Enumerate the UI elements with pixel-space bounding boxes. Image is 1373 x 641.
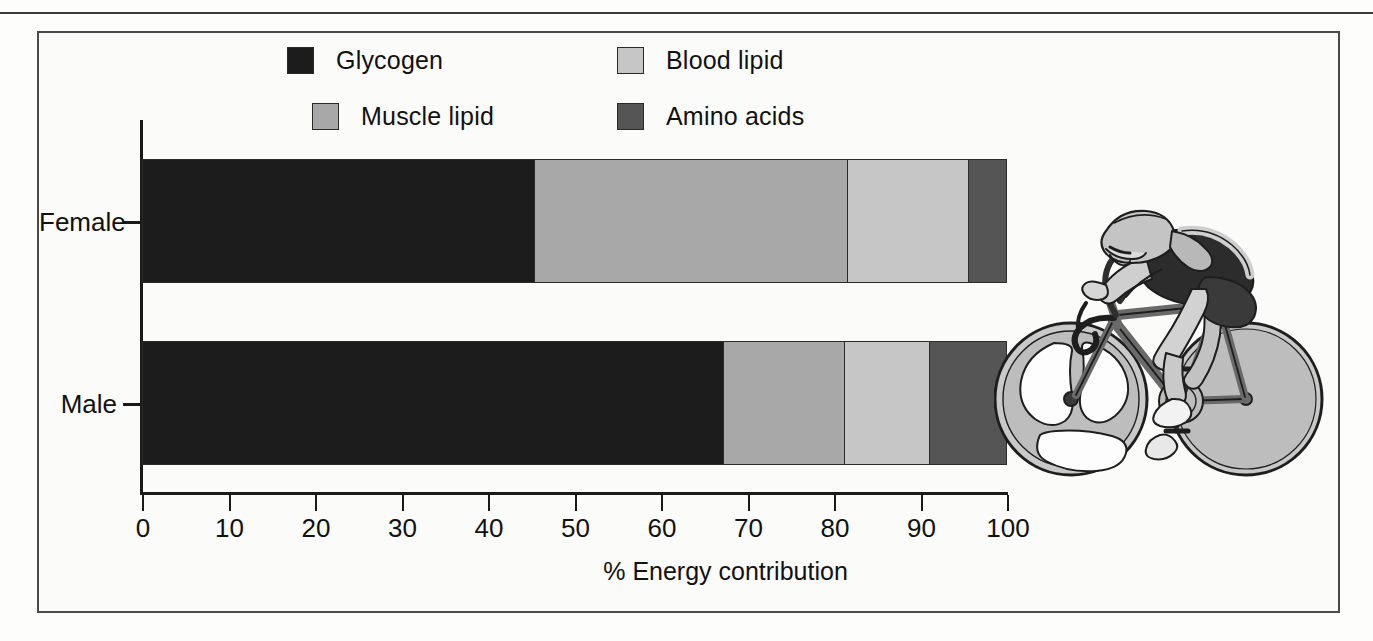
x-tick-label-90: 90	[907, 515, 936, 541]
x-tick-80	[834, 495, 836, 511]
x-tick-label-60: 60	[648, 515, 677, 541]
x-tick-10	[229, 495, 231, 511]
bar-female	[142, 159, 1007, 283]
y-tick-male	[123, 403, 143, 406]
bar-male	[142, 341, 1007, 465]
x-tick-label-80: 80	[821, 515, 850, 541]
y-axis-label-male: Male	[39, 391, 117, 417]
time-trial-cyclist-illustration	[994, 173, 1339, 503]
x-tick-label-20: 20	[302, 515, 331, 541]
figure-canvas: Glycogen Muscle lipid Blood lipid Amino …	[0, 0, 1373, 641]
y-axis-label-female: Female	[39, 209, 117, 235]
figure-frame: Glycogen Muscle lipid Blood lipid Amino …	[37, 31, 1340, 613]
x-tick-label-50: 50	[561, 515, 590, 541]
x-tick-label-40: 40	[475, 515, 504, 541]
x-tick-60	[661, 495, 663, 511]
x-tick-label-100: 100	[986, 515, 1029, 541]
x-tick-0	[142, 495, 144, 511]
x-tick-90	[921, 495, 923, 511]
x-tick-label-30: 30	[388, 515, 417, 541]
bar-segment-female-muscle-lipid	[534, 159, 848, 283]
x-tick-20	[315, 495, 317, 511]
y-tick-female	[123, 221, 143, 224]
bar-segment-male-glycogen	[142, 341, 725, 465]
x-tick-50	[575, 495, 577, 511]
bar-segment-female-blood-lipid	[847, 159, 970, 283]
x-tick-label-10: 10	[215, 515, 244, 541]
bar-segment-male-muscle-lipid	[723, 341, 845, 465]
x-tick-40	[488, 495, 490, 511]
bar-segment-female-glycogen	[142, 159, 536, 283]
top-divider-rule	[0, 12, 1373, 14]
x-tick-label-0: 0	[136, 515, 150, 541]
x-tick-label-70: 70	[734, 515, 763, 541]
plot-area: 0102030405060708090100 FemaleMale % Ener…	[39, 33, 1342, 615]
x-axis-title: % Energy contribution	[39, 557, 1342, 586]
x-tick-70	[748, 495, 750, 511]
x-tick-30	[402, 495, 404, 511]
bar-segment-male-blood-lipid	[844, 341, 930, 465]
